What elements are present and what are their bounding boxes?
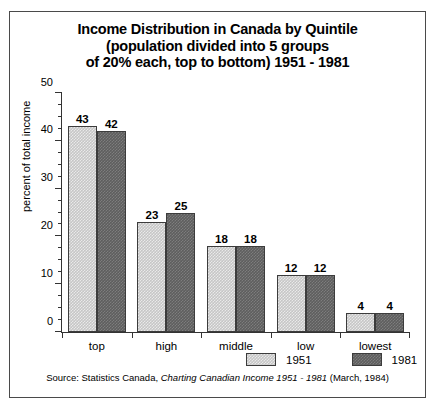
y-tick-minor xyxy=(58,200,62,201)
bar-value-label: 43 xyxy=(76,113,89,125)
legend-label-1981: 1981 xyxy=(392,354,418,366)
y-tick-label: 20 xyxy=(41,219,53,231)
y-tick-major xyxy=(55,283,62,284)
x-tick-label-top: top xyxy=(89,340,105,352)
y-tick-minor xyxy=(58,247,62,248)
y-tick-minor xyxy=(58,152,62,153)
y-tick-minor xyxy=(58,259,62,260)
bar-value-label: 12 xyxy=(314,262,327,274)
legend-swatch-1951 xyxy=(246,353,276,366)
bar-value-label: 18 xyxy=(215,233,228,245)
x-tick-label-middle: middle xyxy=(219,340,253,352)
y-tick-minor xyxy=(58,271,62,272)
y-tick-minor xyxy=(58,176,62,177)
y-tick-minor xyxy=(58,104,62,105)
x-tick-label-low: low xyxy=(297,340,314,352)
bar-top-1951: 43 xyxy=(68,126,97,332)
legend-item-1981: 1981 xyxy=(352,353,418,366)
y-tick-label: 50 xyxy=(41,76,53,88)
y-tick-minor xyxy=(58,212,62,213)
y-tick-minor xyxy=(58,128,62,129)
chart-legend: 1951 1981 xyxy=(246,353,417,366)
y-tick-major xyxy=(55,188,62,189)
y-tick-major xyxy=(55,235,62,236)
chart-title-line-3: of 20% each, top to bottom) 1951 - 1981 xyxy=(10,54,425,71)
bar-value-label: 12 xyxy=(285,262,298,274)
chart-figure: Income Distribution in Canada by Quintil… xyxy=(9,11,426,398)
bar-low-1951: 12 xyxy=(277,275,306,332)
bar-high-1981: 25 xyxy=(166,213,195,333)
bar-high-1951: 23 xyxy=(137,222,166,332)
x-tick xyxy=(409,332,410,338)
legend-item-1951: 1951 xyxy=(246,353,312,366)
y-tick-minor xyxy=(58,223,62,224)
x-tick-label-high: high xyxy=(156,340,178,352)
x-tick xyxy=(340,332,341,338)
y-tick-label: 0 xyxy=(47,315,53,327)
x-tick xyxy=(62,332,63,338)
bar-value-label: 23 xyxy=(145,209,158,221)
bar-lowest-1951: 4 xyxy=(346,313,375,332)
y-tick-minor xyxy=(58,164,62,165)
y-tick-major xyxy=(55,331,62,332)
y-tick-minor xyxy=(58,116,62,117)
x-tick xyxy=(271,332,272,338)
chart-title: Income Distribution in Canada by Quintil… xyxy=(10,21,425,71)
bar-top-1981: 42 xyxy=(97,131,126,332)
bar-middle-1981: 18 xyxy=(236,246,265,332)
source-suffix: (March, 1984) xyxy=(327,372,389,383)
source-note: Source: Statistics Canada, Charting Cana… xyxy=(10,372,425,383)
y-tick-major xyxy=(55,92,62,93)
y-tick-minor xyxy=(58,295,62,296)
y-tick-minor xyxy=(58,319,62,320)
y-tick-minor xyxy=(58,307,62,308)
x-tick xyxy=(201,332,202,338)
x-tick xyxy=(132,332,133,338)
y-tick-label: 40 xyxy=(41,123,53,135)
bar-value-label: 42 xyxy=(105,118,118,130)
bar-lowest-1981: 4 xyxy=(375,313,404,332)
x-tick-label-lowest: lowest xyxy=(359,340,392,352)
y-tick-label: 10 xyxy=(41,267,53,279)
source-prefix: Source: Statistics Canada, xyxy=(46,372,161,383)
bar-value-label: 4 xyxy=(357,300,363,312)
plot-area: 01020304050 tophighmiddlelowlowest 43422… xyxy=(61,93,410,333)
legend-label-1951: 1951 xyxy=(286,354,312,366)
chart-title-line-1: Income Distribution in Canada by Quintil… xyxy=(10,21,425,38)
y-axis-title: percent of total income xyxy=(20,101,32,212)
bar-value-label: 25 xyxy=(174,200,187,212)
y-tick-label: 30 xyxy=(41,171,53,183)
bar-low-1981: 12 xyxy=(306,275,335,332)
bar-value-label: 4 xyxy=(386,300,392,312)
y-tick-major xyxy=(55,140,62,141)
bar-middle-1951: 18 xyxy=(207,246,236,332)
source-title: Charting Canadian Income 1951 - 1981 xyxy=(161,372,327,383)
chart-title-line-2: (population divided into 5 groups xyxy=(10,38,425,55)
bar-value-label: 18 xyxy=(244,233,257,245)
legend-swatch-1981 xyxy=(352,353,382,366)
